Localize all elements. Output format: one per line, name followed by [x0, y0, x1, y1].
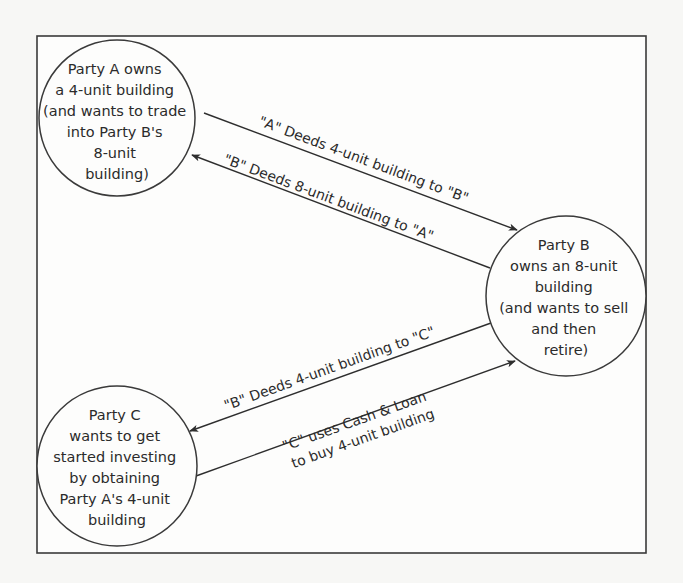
node-party-c: Party C wants to get started investing b… — [37, 386, 197, 546]
exchange-diagram: "A" Deeds 4-unit building to "B" "B" Dee… — [0, 0, 683, 583]
node-party-b: Party B owns an 8-unit building (and wan… — [486, 216, 646, 376]
node-party-a: Party A owns a 4-unit building (and want… — [39, 40, 195, 196]
